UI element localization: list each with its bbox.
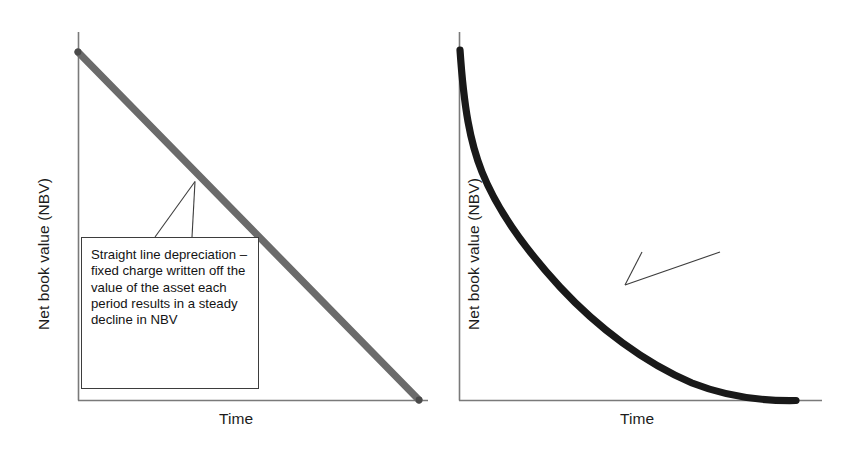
x-axis-label-straight-line: Time	[219, 411, 253, 427]
callout-leader-line-b	[192, 182, 195, 238]
y-axis-label-straight-line: Net book value (NBV)	[36, 178, 52, 330]
y-axis-label-reducing-balance: Net book value (NBV)	[466, 178, 482, 330]
series-end-marker	[416, 397, 423, 404]
straight-line-plot	[0, 0, 430, 459]
chart-panel-reducing-balance: Net book value (NBV) Time Reducing balan…	[430, 0, 857, 459]
x-axis-label-reducing-balance: Time	[620, 411, 654, 427]
reducing-balance-plot	[430, 0, 857, 459]
reducing-balance-series	[460, 50, 796, 401]
callout-straight-line-depreciation: Straight line depreciation – fixed charg…	[81, 237, 259, 389]
chart-panel-straight-line: Net book value (NBV) Time Straight line …	[0, 0, 430, 459]
callout-leader-line-a	[155, 182, 195, 238]
depreciation-comparison-figure: Net book value (NBV) Time Straight line …	[0, 0, 857, 459]
series-start-marker	[75, 49, 82, 56]
